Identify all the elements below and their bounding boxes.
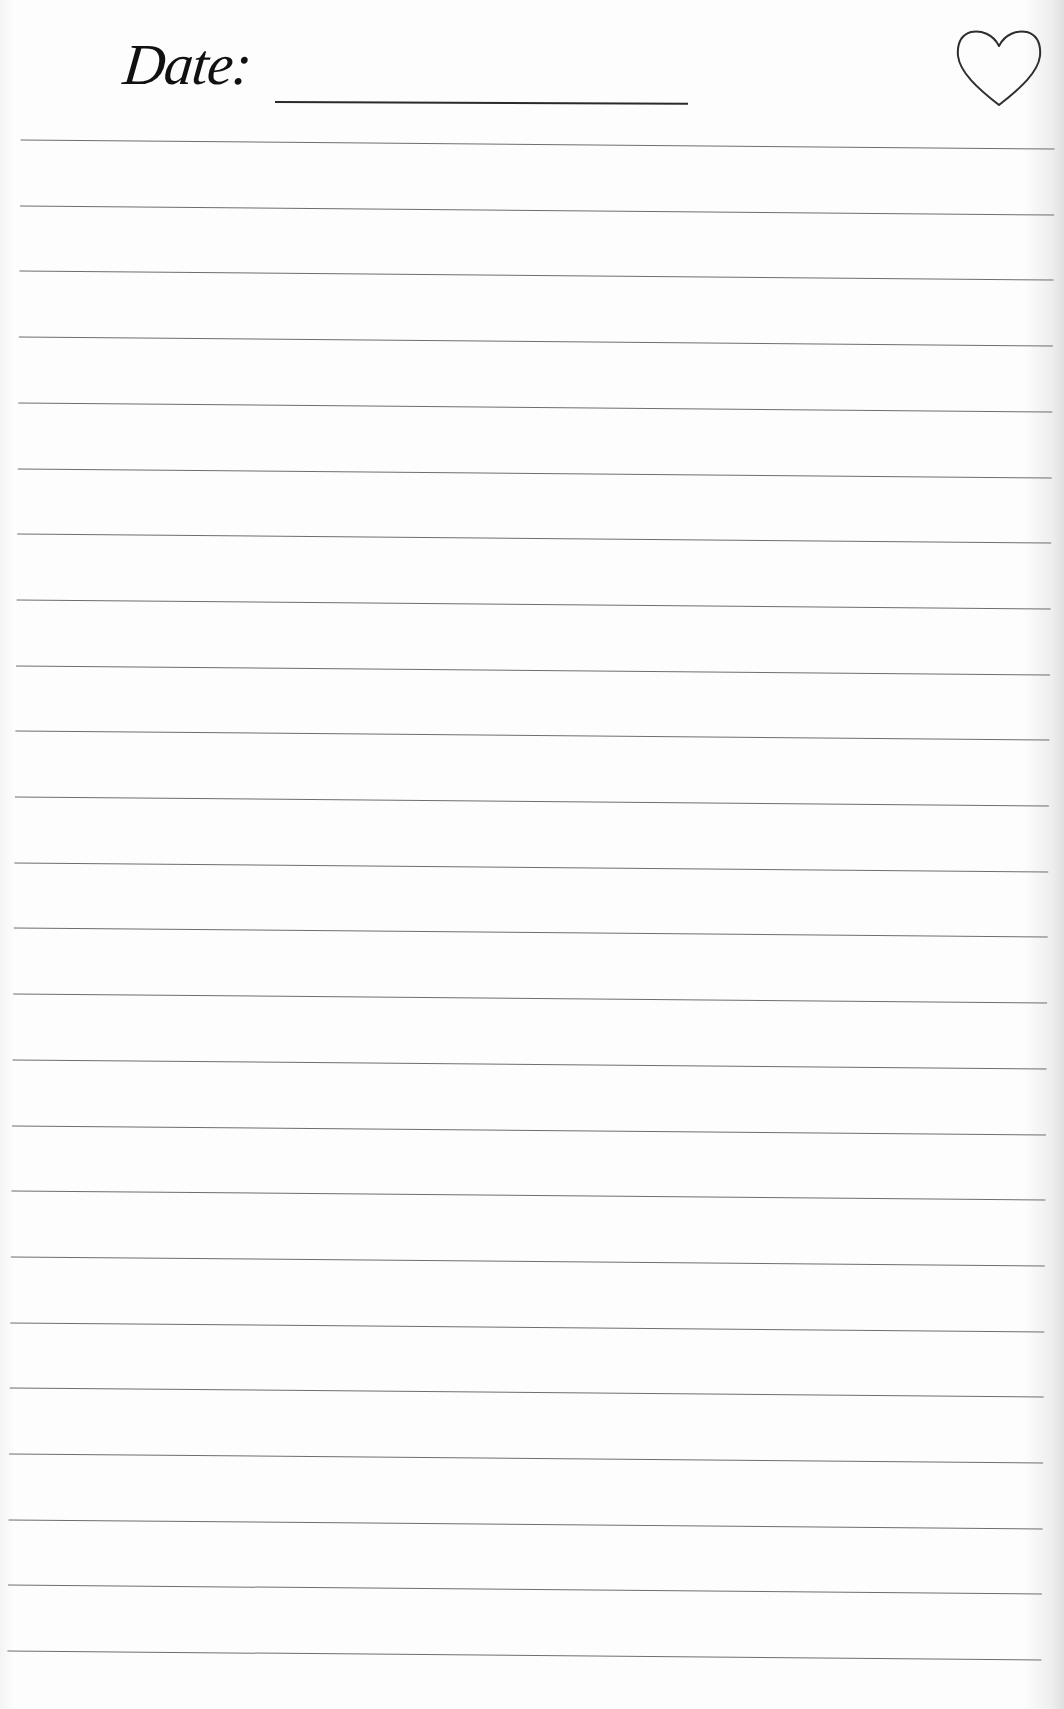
writing-line[interactable] [9, 1453, 1043, 1463]
writing-line[interactable] [13, 1059, 1047, 1069]
writing-line[interactable] [9, 1519, 1043, 1529]
writing-line[interactable] [12, 1125, 1046, 1135]
writing-line[interactable] [19, 337, 1053, 347]
writing-line[interactable] [19, 271, 1053, 281]
writing-line[interactable] [13, 994, 1047, 1004]
writing-line[interactable] [17, 599, 1051, 609]
writing-line[interactable] [11, 1191, 1045, 1201]
writing-line[interactable] [10, 1322, 1044, 1332]
writing-line[interactable] [15, 731, 1049, 741]
writing-line[interactable] [18, 402, 1052, 412]
writing-line[interactable] [7, 1651, 1041, 1661]
writing-line[interactable] [15, 796, 1049, 806]
writing-line[interactable] [10, 1388, 1044, 1398]
writing-line[interactable] [18, 468, 1052, 478]
writing-line[interactable] [20, 205, 1054, 215]
writing-line[interactable] [21, 140, 1055, 150]
writing-line[interactable] [8, 1585, 1042, 1595]
writing-line[interactable] [14, 928, 1048, 938]
writing-line[interactable] [16, 665, 1050, 675]
ruled-lines [7, 0, 1056, 1709]
writing-line[interactable] [14, 862, 1048, 872]
writing-line[interactable] [11, 1256, 1045, 1266]
writing-line[interactable] [17, 534, 1051, 544]
